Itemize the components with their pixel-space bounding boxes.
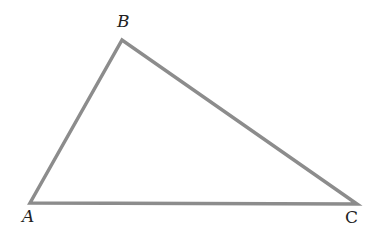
triangle-abc: [30, 40, 357, 204]
triangle-svg: B A C: [0, 0, 386, 245]
vertex-label-a: A: [20, 206, 34, 226]
vertex-label-c: C: [345, 207, 358, 227]
triangle-diagram: B A C: [0, 0, 386, 245]
vertex-label-b: B: [116, 11, 130, 31]
